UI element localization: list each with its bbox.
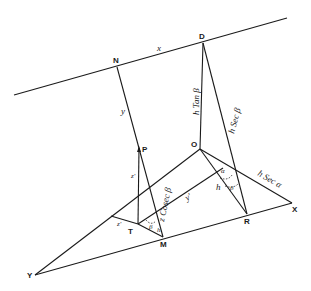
label-h-sec-beta: h Sec β xyxy=(226,106,243,134)
point-label-X: X xyxy=(292,205,298,214)
line-T-P xyxy=(138,148,139,224)
label-beta-right: β xyxy=(229,184,234,192)
label-z-near-T: z' xyxy=(116,220,122,228)
label-x: x xyxy=(156,43,161,53)
label-z-prime: z' xyxy=(130,172,136,180)
line-O-R xyxy=(200,149,247,214)
label-h-sec-alpha: h Sec α xyxy=(256,168,284,190)
point-label-N: N xyxy=(113,56,119,65)
line-top xyxy=(14,18,287,95)
point-label-Y: Y xyxy=(27,271,33,280)
line-D-R xyxy=(203,43,247,214)
label-h-tan-beta: h Tan β xyxy=(191,88,201,115)
line-O-X xyxy=(200,149,292,203)
arrow-P xyxy=(137,146,141,152)
line-T-yprime xyxy=(138,168,223,224)
label-beta-left: β xyxy=(148,223,153,231)
label-y-prime: y' xyxy=(182,191,194,204)
point-label-O: O xyxy=(191,140,197,149)
point-label-P: P xyxy=(142,145,148,154)
label-h-near-M: h xyxy=(157,226,161,234)
line-left-T xyxy=(111,216,138,224)
point-label-R: R xyxy=(244,217,250,226)
label-h: h xyxy=(216,182,221,192)
label-y: y xyxy=(120,106,125,116)
line-O-Y xyxy=(35,149,200,275)
point-label-D: D xyxy=(199,32,205,41)
geometry-diagram: N D P O T M R X Y x y z' y' h Tan β h Se… xyxy=(0,0,311,291)
point-label-M: M xyxy=(160,240,167,249)
label-z-cosec-beta: z Cosec β xyxy=(156,186,173,223)
label-alpha: α xyxy=(221,167,225,175)
point-label-T: T xyxy=(128,227,133,236)
